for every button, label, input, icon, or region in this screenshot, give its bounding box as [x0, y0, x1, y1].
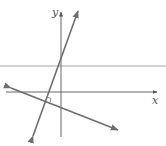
- shallow-line: [11, 88, 118, 130]
- y-axis-label: y: [51, 6, 59, 19]
- coordinate-diagram: x y: [0, 0, 166, 146]
- steep-line: [33, 11, 78, 136]
- x-axis-label: x: [152, 94, 159, 107]
